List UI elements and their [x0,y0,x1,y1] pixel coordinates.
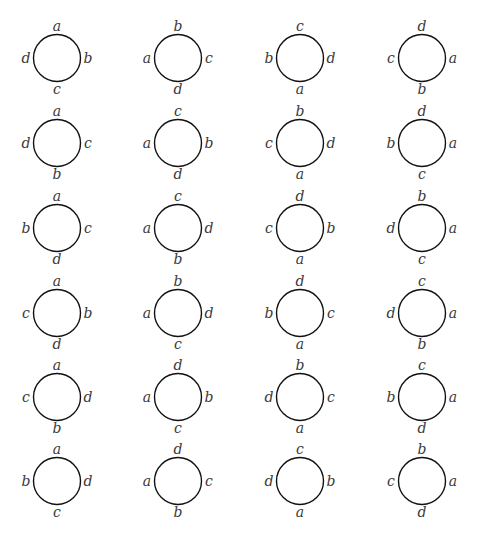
label-left: a [143,473,151,489]
circle [155,120,202,167]
label-right: d [84,473,93,489]
label-bottom: d [174,166,183,182]
label-bottom: d [418,420,427,436]
label-bottom: b [174,251,183,267]
labeled-circle-r6-c2: dcba [143,441,213,520]
label-right: b [205,135,214,151]
label-right: a [449,220,457,236]
label-right: d [327,135,336,151]
label-bottom: d [418,504,427,520]
circle [399,290,446,337]
label-left: d [22,50,31,66]
labeled-circle-r1-c4: dabc [387,18,457,97]
label-left: b [22,473,31,489]
label-right: c [84,135,92,151]
label-bottom: a [296,166,304,182]
label-bottom: d [53,251,62,267]
label-top: d [296,273,305,289]
label-left: b [387,389,396,405]
label-bottom: c [174,336,182,352]
label-left: a [143,50,151,66]
label-top: d [418,103,427,119]
circle [34,120,81,167]
label-right: c [327,305,335,321]
labeled-circle-r1-c1: abcd [22,18,93,97]
label-right: b [327,473,336,489]
label-top: c [174,103,182,119]
label-top: a [53,103,61,119]
label-right: b [84,305,93,321]
labeled-circle-r3-c1: acdb [22,188,93,267]
label-right: c [84,220,92,236]
label-right: a [449,473,457,489]
labeled-circle-r4-c4: cabd [387,273,458,352]
label-top: a [53,18,61,34]
circle [155,35,202,82]
label-bottom: a [296,504,304,520]
labeled-circle-r4-c3: dcab [265,273,336,352]
labeled-circle-r3-c4: bacd [387,188,458,267]
label-bottom: c [418,251,426,267]
label-top: d [418,18,427,34]
circle [277,205,324,252]
label-bottom: c [418,166,426,182]
label-left: c [387,473,395,489]
label-left: a [143,220,151,236]
label-bottom: c [53,81,61,97]
label-right: a [449,135,457,151]
label-right: c [205,50,213,66]
label-right: c [205,473,213,489]
label-top: c [418,357,426,373]
label-bottom: b [418,336,427,352]
label-right: d [327,50,336,66]
circle [155,205,202,252]
label-top: b [296,357,305,373]
circle [155,458,202,505]
circle-grid: abcdbcdacdabdabcacbdcbdabdacdacbacdbcdba… [22,18,458,520]
labeled-circle-r3-c3: dbac [265,188,335,267]
label-top: b [174,273,183,289]
circle [34,205,81,252]
circle [277,120,324,167]
label-bottom: c [174,420,182,436]
label-bottom: a [296,420,304,436]
label-right: b [327,220,336,236]
circle [399,35,446,82]
label-left: c [387,50,395,66]
label-top: d [174,441,183,457]
circle [399,120,446,167]
label-bottom: a [296,336,304,352]
label-left: d [387,305,396,321]
label-top: c [296,441,304,457]
label-bottom: d [53,336,62,352]
circle [399,205,446,252]
labeled-circle-r6-c1: adcb [22,441,93,520]
label-right: a [449,389,457,405]
labeled-circle-r5-c2: dbca [143,357,214,436]
label-bottom: b [174,504,183,520]
label-left: c [265,220,273,236]
label-top: c [296,18,304,34]
label-bottom: a [296,251,304,267]
label-left: c [22,389,30,405]
label-top: a [53,441,61,457]
labeled-circle-r6-c3: cbad [265,441,336,520]
circle [277,290,324,337]
label-bottom: c [53,504,61,520]
label-right: b [205,389,214,405]
labeled-circle-r2-c3: bdac [265,103,335,182]
label-left: a [143,305,151,321]
label-left: d [387,220,396,236]
labeled-circle-r6-c4: badc [387,441,457,520]
circle [34,374,81,421]
label-bottom: b [53,166,62,182]
labeled-circle-r4-c1: abdc [22,273,92,352]
labeled-circle-r3-c2: cdba [143,188,214,267]
label-left: a [143,135,151,151]
labeled-circle-r2-c2: cbda [143,103,214,182]
label-left: d [265,389,274,405]
label-top: b [296,103,305,119]
labeled-circle-r5-c3: bcad [265,357,336,436]
label-top: d [296,188,305,204]
label-top: b [174,18,183,34]
